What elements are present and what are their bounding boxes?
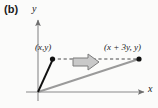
shear-transformation-figure: (b) y x (x,y) (x + 3y, y) <box>0 0 158 108</box>
source-point <box>50 56 55 61</box>
block-arrow-right-icon <box>73 54 99 70</box>
image-point-label: (x + 3y, y) <box>104 43 141 52</box>
source-point-label: (x,y) <box>35 43 51 52</box>
x-axis-label: x <box>148 84 152 94</box>
figure-canvas <box>0 0 158 108</box>
panel-label: (b) <box>4 4 18 15</box>
image-point <box>136 56 141 61</box>
y-axis-label: y <box>32 4 36 14</box>
